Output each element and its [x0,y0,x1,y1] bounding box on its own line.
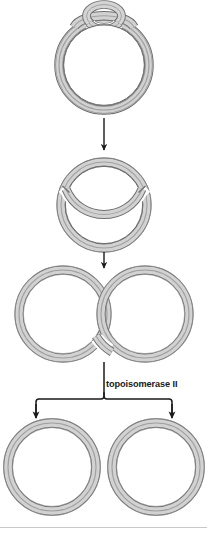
decatenated-left-ring [3,418,100,515]
stage-4-decatenated-rings [3,418,204,515]
stage-3-catenated-rings [15,266,194,363]
decatenated-right-ring [107,418,204,515]
topoisomerase-diagram [0,0,207,541]
caption-divider [0,527,207,528]
caption-text-cutoff [0,532,207,541]
enzyme-label-topoisomerase-ii: topoisomerase II [106,379,177,389]
stage-2-strand-passage [57,158,152,253]
stage-1-supercoiled-circle [56,5,153,114]
branching-arrow [36,362,172,418]
